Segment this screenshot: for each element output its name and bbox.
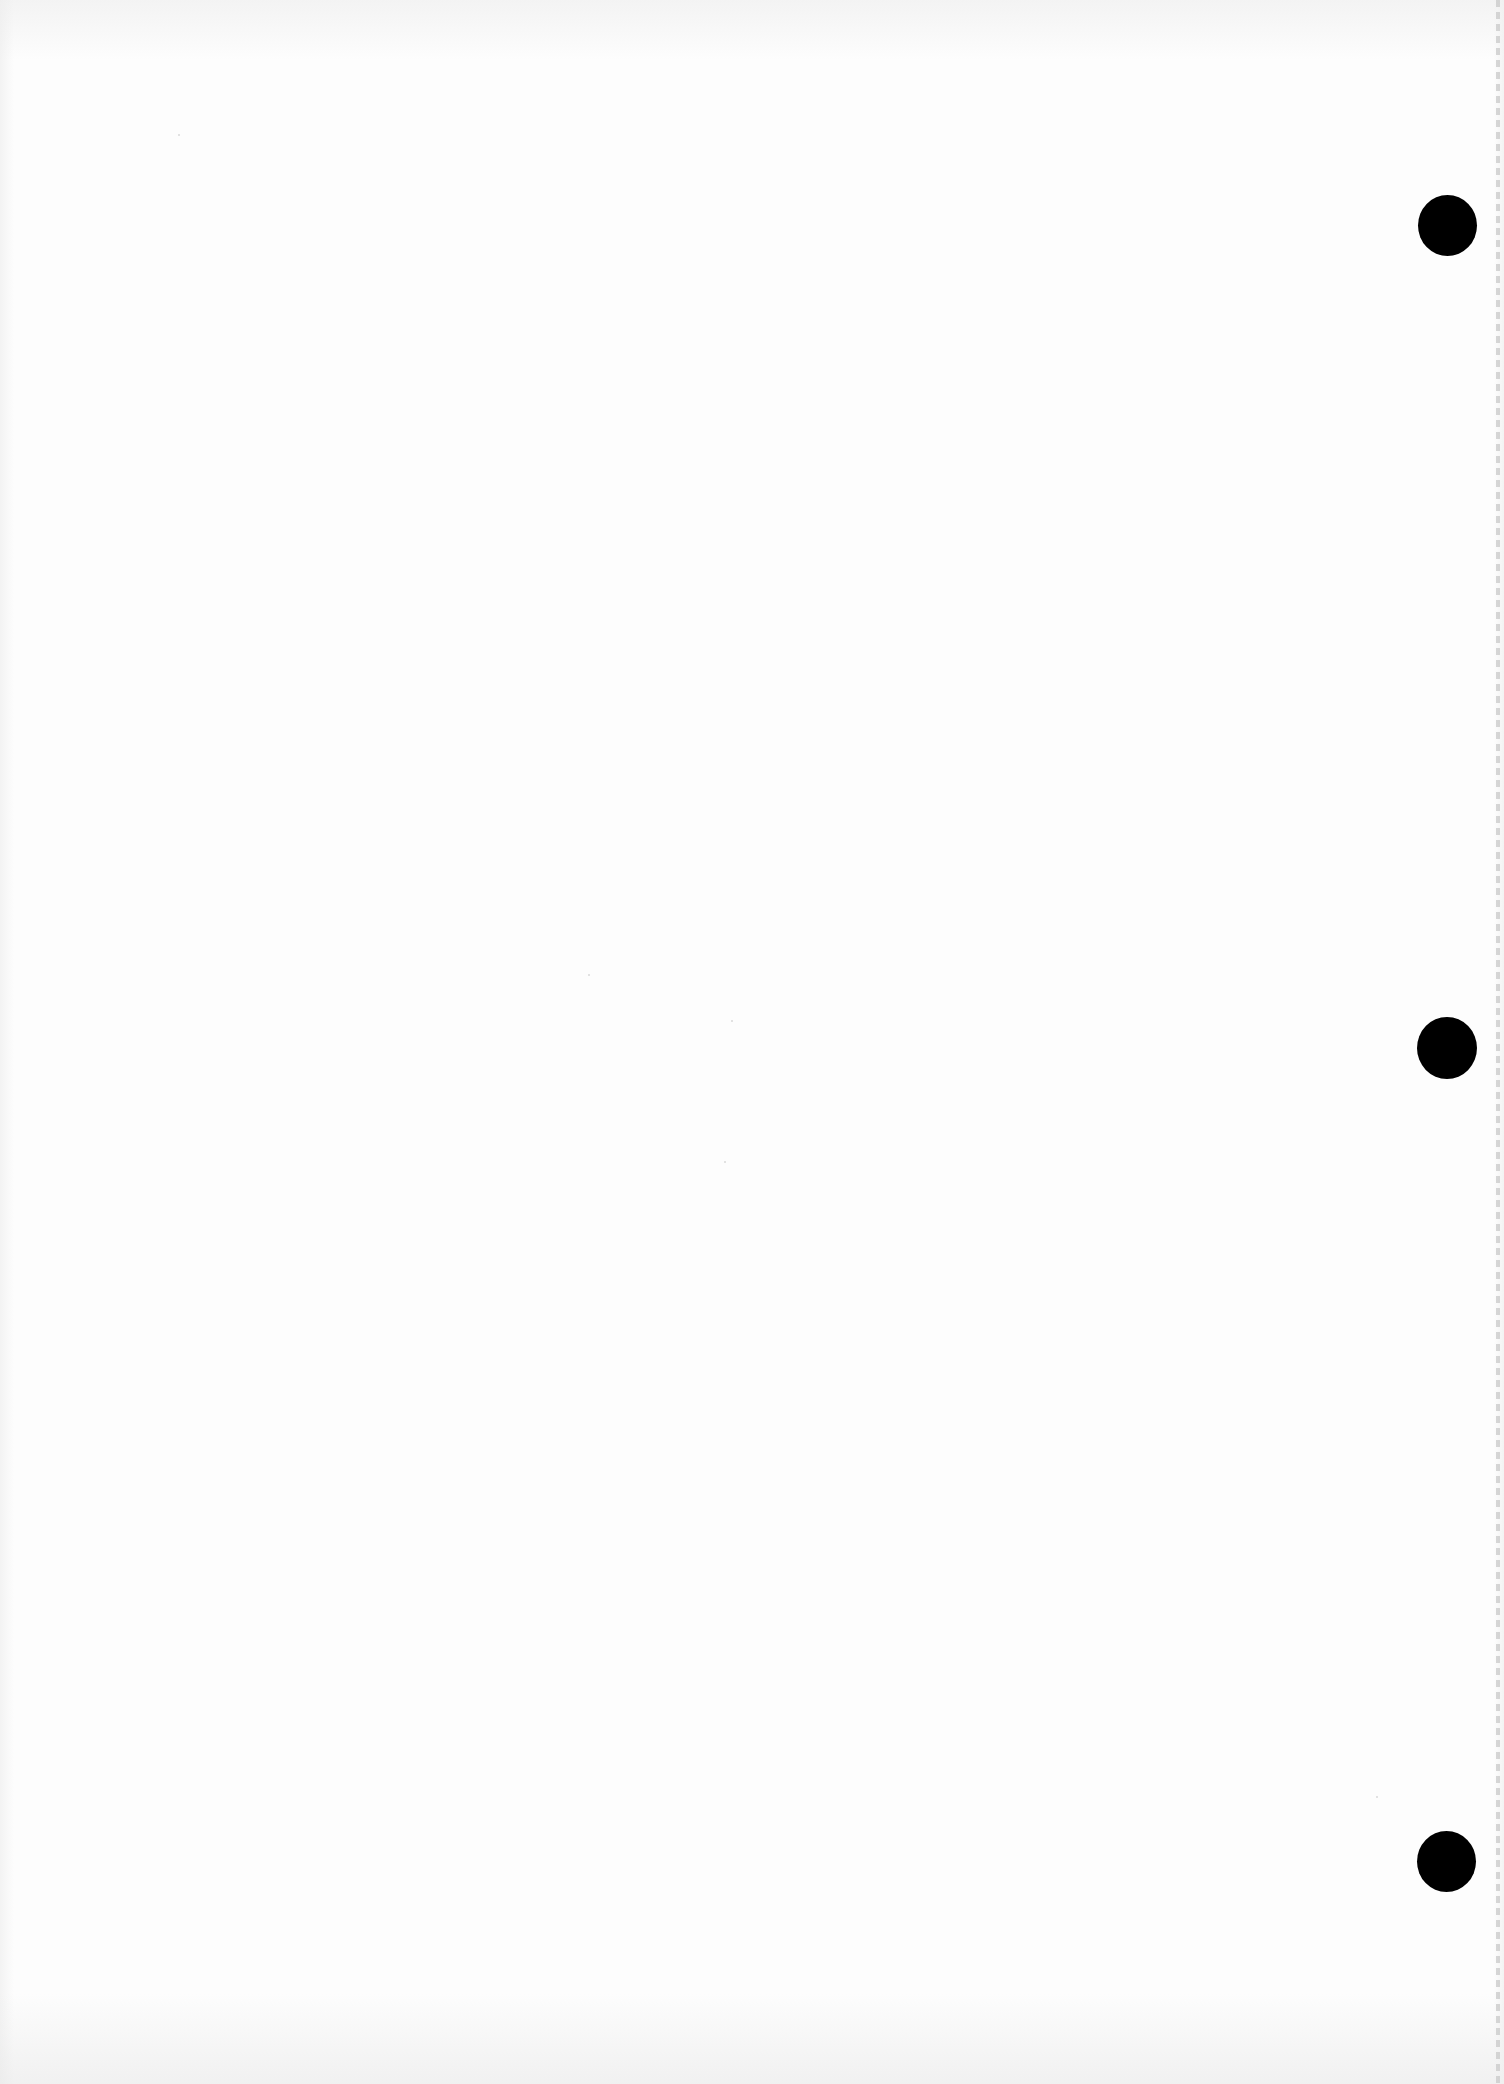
scan-speck bbox=[724, 1161, 726, 1163]
punch-hole-top bbox=[1418, 195, 1477, 256]
right-edge-perforation bbox=[1496, 0, 1500, 2084]
scanned-blank-page bbox=[0, 0, 1504, 2084]
punch-hole-bottom bbox=[1417, 1831, 1476, 1892]
scan-shading-left bbox=[0, 0, 14, 2084]
scan-speck bbox=[731, 1020, 733, 1022]
scan-shading-bottom bbox=[0, 1994, 1504, 2084]
scan-shading-top bbox=[0, 0, 1504, 60]
scan-speck bbox=[588, 974, 590, 976]
punch-hole-middle bbox=[1417, 1017, 1477, 1079]
scan-speck bbox=[1376, 1796, 1378, 1798]
scan-speck bbox=[178, 134, 180, 136]
